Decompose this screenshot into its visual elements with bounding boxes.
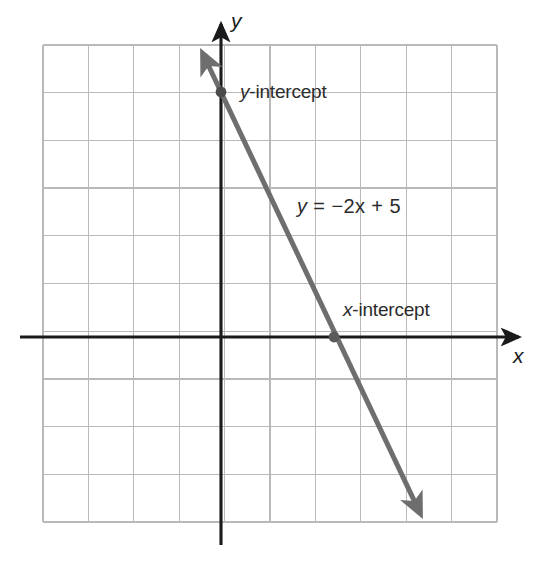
y-intercept-variable: y — [240, 81, 249, 102]
x-intercept-label: x-intercept — [343, 300, 430, 319]
y-intercept-suffix: -intercept — [249, 81, 326, 102]
x-intercept-point — [329, 332, 340, 343]
grid-lines — [43, 45, 497, 522]
x-intercept-variable: x — [343, 299, 352, 320]
y-axis-label: y — [231, 10, 242, 31]
y-intercept-point — [216, 87, 227, 98]
x-intercept-suffix: -intercept — [352, 299, 429, 320]
equation-rhs: = −2x + 5 — [307, 195, 401, 217]
x-axis-label: x — [513, 345, 524, 366]
y-intercept-label: y-intercept — [240, 82, 327, 101]
equation-lhs: y — [297, 195, 307, 217]
equation-label: y = −2x + 5 — [297, 196, 401, 216]
graph-figure: y x y-intercept x-intercept y = −2x + 5 — [0, 0, 544, 565]
